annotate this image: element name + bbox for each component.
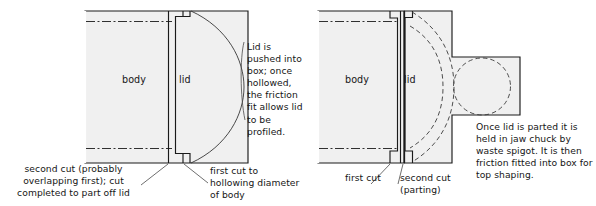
diagram-root: .solid { fill:none; stroke:#1a1a1a; stro… (0, 0, 596, 206)
left-diagram-group (85, 11, 248, 185)
left-blank-outline (85, 11, 248, 163)
left-lid-label: lid (179, 74, 191, 85)
left-second-cut-caption: second cut (probably overlapping first);… (6, 163, 141, 199)
left-diagram-note: Lid is pushed into box; once hollowed, t… (247, 41, 305, 138)
left-leader-first-cut (184, 164, 208, 183)
right-second-cut-caption: second cut (parting) (400, 172, 466, 196)
left-first-cut-caption: first cut to hollowing diameter of body (210, 165, 305, 201)
right-diagram-note: Once lid is parted it is held in jaw chu… (476, 121, 596, 181)
left-body-label: body (122, 74, 146, 85)
right-first-cut-caption: first cut (345, 172, 401, 184)
right-lid-label: lid (404, 74, 416, 85)
right-body-outline (318, 11, 404, 163)
right-body-label: body (345, 74, 369, 85)
left-leader-second-cut (141, 164, 168, 185)
